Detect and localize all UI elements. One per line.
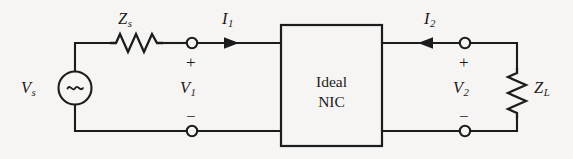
- output-minus-sign: −: [459, 108, 469, 125]
- input-current-label-symbol: I: [222, 9, 228, 28]
- wire-zl-bottom-to-terminal: [471, 118, 517, 131]
- output-terminal-top: [460, 38, 470, 48]
- ideal-nic-box-label: Ideal NIC: [281, 72, 382, 112]
- output-voltage-label: V2: [453, 80, 469, 98]
- input-voltage-label-subscript: 1: [190, 86, 196, 98]
- output-current-label: I2: [424, 11, 435, 29]
- source-label: Vs: [21, 80, 36, 98]
- load-impedance-label-subscript: L: [543, 86, 550, 98]
- source-impedance-label-symbol: Z: [118, 9, 127, 28]
- input-voltage-label-symbol: V: [180, 78, 190, 97]
- source-label-subscript: s: [31, 86, 36, 98]
- output-current-arrowhead-icon: [418, 37, 433, 48]
- wire-terminal2-to-zl-top: [471, 43, 517, 68]
- output-terminal-bottom: [460, 126, 470, 136]
- ideal-nic-label-line1: Ideal: [281, 72, 382, 92]
- wire-source-bottom-to-terminal: [75, 104, 186, 131]
- input-plus-sign: +: [186, 54, 196, 71]
- output-current-label-subscript: 2: [430, 17, 436, 29]
- input-current-label: I1: [222, 11, 233, 29]
- input-terminal-bottom: [187, 126, 197, 136]
- output-voltage-label-subscript: 2: [463, 86, 469, 98]
- circuit-diagram: Vs Zs I1 + V1 − Ideal NIC I2 + V2 − ZL: [0, 0, 573, 159]
- wire-source-to-zs: [75, 43, 110, 72]
- input-current-arrowhead-icon: [224, 37, 239, 48]
- input-voltage-label: V1: [180, 80, 196, 98]
- load-impedance-resistor-symbol: [508, 68, 526, 118]
- input-current-label-subscript: 1: [228, 17, 234, 29]
- source-impedance-label: Zs: [118, 11, 132, 29]
- source-impedance-label-subscript: s: [127, 17, 132, 29]
- load-impedance-label-symbol: Z: [534, 78, 543, 97]
- input-terminal-top: [187, 38, 197, 48]
- output-current-label-symbol: I: [424, 9, 430, 28]
- output-plus-sign: +: [459, 54, 469, 71]
- output-voltage-label-symbol: V: [453, 78, 463, 97]
- ideal-nic-label-line2: NIC: [281, 92, 382, 112]
- source-impedance-resistor-symbol: [110, 34, 163, 52]
- input-minus-sign: −: [186, 108, 196, 125]
- load-impedance-label: ZL: [534, 80, 550, 98]
- source-label-symbol: V: [21, 78, 31, 97]
